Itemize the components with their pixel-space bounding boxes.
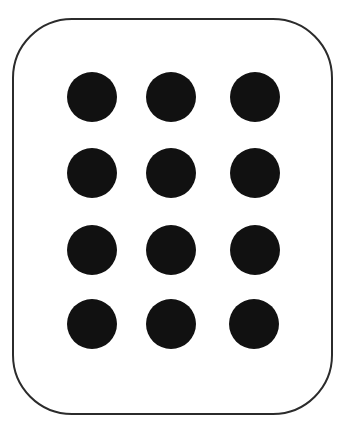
dot-r4-c2 <box>146 299 196 349</box>
dot-r1-c2 <box>146 72 196 122</box>
dot-r1-c1 <box>67 72 117 122</box>
dot-r2-c2 <box>146 148 196 198</box>
dot-r4-c1 <box>67 299 117 349</box>
dot-r4-c3 <box>229 299 279 349</box>
dot-r2-c1 <box>67 148 117 198</box>
dot-r3-c1 <box>67 225 117 275</box>
dot-r1-c3 <box>230 72 280 122</box>
dot-r3-c2 <box>146 225 196 275</box>
dot-r2-c3 <box>230 148 280 198</box>
dot-r3-c3 <box>230 225 280 275</box>
